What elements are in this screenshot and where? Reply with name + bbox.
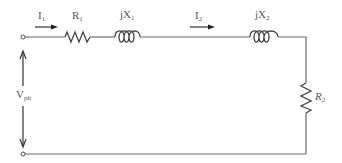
i2-current-arrow: [190, 25, 215, 30]
bottom-terminal: [21, 152, 25, 156]
vph-label: Vph: [16, 88, 31, 102]
top-terminal: [21, 35, 25, 39]
i1-label: I1: [38, 9, 46, 23]
circuit-diagram: I1 R1 jX1 I2 jX2 R2 Vph: [0, 0, 342, 163]
jx2-inductor-symbol: [250, 31, 278, 42]
jx1-inductor-symbol: [115, 31, 140, 42]
top-wire-jx2-to-corner: [278, 37, 306, 83]
r2-label: R2: [314, 90, 326, 104]
jx1-label: jX1: [119, 8, 135, 22]
r1-resistor-symbol: [65, 32, 90, 42]
i1-current-arrow: [35, 25, 58, 30]
i2-label: I2: [195, 9, 203, 23]
r2-resistor-symbol: [301, 83, 311, 113]
jx2-label: jX2: [254, 8, 270, 22]
r1-label: R1: [72, 9, 83, 23]
